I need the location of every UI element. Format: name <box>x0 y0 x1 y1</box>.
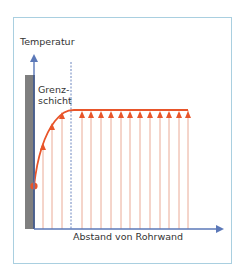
y-axis-label: Temperatur <box>20 37 75 48</box>
core-arrowheads <box>79 111 191 118</box>
boundary-layer-label: Grenz- schicht <box>38 85 72 107</box>
pipe-wall <box>25 75 34 229</box>
x-axis-label: Abstand von Rohrwand <box>73 232 183 243</box>
core-arrows <box>82 110 188 229</box>
boundary-layer-label-line2: schicht <box>38 96 72 107</box>
